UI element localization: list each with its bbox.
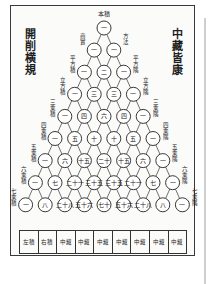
svg-text:一: 一 [72,90,78,97]
svg-text:十: 十 [91,135,97,143]
triangle-cell: 七十 [97,198,111,212]
left-label: 七乘積 [11,188,17,206]
svg-text:十五: 十五 [78,157,90,165]
svg-text:二十八: 二十八 [134,201,152,209]
svg-text:八: 八 [42,201,48,208]
triangle-cell: 十 [107,132,121,146]
table-cell: 中藏 [169,231,187,253]
triangle-cell: 二十八 [56,198,74,212]
triangle-cell: 二十八 [134,198,152,212]
triangle-cell: 十 [87,132,101,146]
triangle-cell: 八 [156,198,170,212]
svg-text:一: 一 [150,135,156,142]
svg-text:一: 一 [52,135,58,142]
svg-text:七十: 七十 [98,201,110,209]
right-label: 方法 [123,33,129,45]
left-label: 三乘積 [50,99,56,117]
svg-text:一: 一 [91,46,97,53]
triangle-cell: 七 [48,176,62,190]
svg-text:一: 一 [32,179,38,186]
triangle-cell: 一 [97,21,111,35]
triangle-cell: 十五 [77,154,91,168]
right-label: 六乘隅 [182,166,188,184]
triangle-cell: 一 [68,87,82,101]
svg-text:四: 四 [81,112,87,119]
triangle-cell: 八 [38,198,52,212]
triangle-cell: 五十六 [115,198,133,212]
table-cell: 中藏 [150,231,169,253]
svg-text:一: 一 [140,112,146,119]
svg-text:十五: 十五 [118,157,130,165]
triangle-cell: 四 [117,109,131,123]
triangle-cell: 一 [126,87,140,101]
table-cell: 左積 [20,231,39,253]
triangle-cell: 一 [166,176,180,190]
table-cell: 中藏 [131,231,150,253]
bottom-table: 左積右積中藏中藏中藏中藏中藏中藏中藏 [19,230,187,254]
table-cell: 中藏 [113,231,132,253]
triangle-cell: 一 [28,176,42,190]
triangle-cell: 一 [58,109,72,123]
svg-text:六: 六 [62,157,68,165]
triangle-cell: 三十五 [105,176,123,190]
triangle-cell: 三 [87,87,101,101]
svg-text:八: 八 [160,201,166,208]
triangle-cell: 五 [126,132,140,146]
right-label: 三乘隅 [152,99,158,117]
svg-text:五: 五 [72,135,78,142]
svg-text:三十五: 三十五 [105,179,123,187]
left-label: 平方積 [69,55,75,73]
svg-text:一: 一 [81,68,87,75]
left-label: 四乘積 [40,122,46,140]
svg-text:三十五: 三十五 [85,179,103,187]
svg-text:五十六: 五十六 [75,201,93,209]
table-cell: 中藏 [57,231,76,253]
left-label: 商實 [79,33,85,45]
triangle-cell: 一 [117,65,131,79]
svg-text:七: 七 [150,179,156,186]
svg-text:一: 一 [130,90,136,97]
right-label: 立方隅 [142,77,148,95]
triangle-cell: 五十六 [75,198,93,212]
svg-text:十: 十 [111,135,117,143]
right-label: 五乘隅 [172,144,178,162]
right-label: 七乘隅 [191,188,197,206]
svg-text:一: 一 [160,157,166,164]
svg-text:一: 一 [179,201,185,208]
right-label: 四乘隅 [162,122,168,140]
svg-text:六: 六 [140,157,146,165]
svg-text:二十八: 二十八 [56,201,74,209]
triangle-cell: 一 [87,43,101,57]
triangle-cell: 一 [146,132,160,146]
svg-text:四: 四 [121,112,127,119]
svg-text:五十六: 五十六 [115,201,133,209]
triangle-cell: 二 [97,65,111,79]
svg-text:一: 一 [111,46,117,53]
svg-text:二十一: 二十一 [66,179,84,187]
right-label: 平方隅 [133,55,139,73]
triangle-cell: 一 [48,132,62,146]
left-label: 五乘積 [30,144,36,162]
triangle-cell: 一 [38,154,52,168]
svg-text:二: 二 [101,68,107,75]
table-cell: 右積 [39,231,58,253]
triangle-cell: 六 [136,154,150,168]
table-cell: 中藏 [76,231,95,253]
triangle-cell: 四 [77,109,91,123]
table-cell: 中藏 [94,231,113,253]
svg-text:六: 六 [101,112,107,120]
svg-text:五: 五 [130,135,136,142]
triangle-cell: 一 [107,43,121,57]
triangle-cell: 十五 [117,154,131,168]
triangle-cell: 六 [97,109,111,123]
triangle-cell: 五 [68,132,82,146]
svg-text:一: 一 [23,201,29,208]
svg-text:一: 一 [170,179,176,186]
svg-text:一: 一 [101,24,107,31]
left-label: 立方積 [60,77,66,95]
svg-text:一: 一 [121,68,127,75]
triangle-cell: 一 [156,154,170,168]
triangle-cell: 二十一 [66,176,84,190]
triangle-cell: 三十五 [85,176,103,190]
svg-text:一: 一 [62,112,68,119]
